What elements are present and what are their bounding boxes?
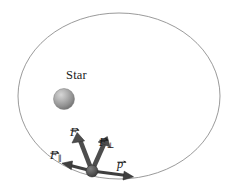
force-total-symbol: F [70,125,78,139]
star-sphere [54,89,75,110]
momentum-symbol: p [117,157,123,171]
physics-orbit-diagram: Star F F⊥ F∥ [0,0,229,194]
momentum-label: p [117,155,123,172]
force-parallel-subscript: ∥ [58,154,62,163]
force-parallel-label: F∥ [50,146,62,163]
planet-sphere [86,165,98,177]
force-total-label: F [70,123,78,140]
force-parallel-symbol: F [50,148,58,162]
star-label: Star [66,69,87,82]
force-perpendicular-subscript: ⊥ [107,141,115,150]
diagram-canvas [0,0,229,194]
force-perpendicular-label: F⊥ [99,133,114,150]
force-perpendicular-symbol: F [99,135,107,149]
